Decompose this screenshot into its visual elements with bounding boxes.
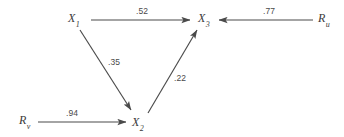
node-x2-name: X [132, 115, 140, 129]
coefficient-rv-x2: .94 [66, 109, 78, 118]
path-diagram: X1 X2 X3 Ru Rv .52 .35 .22 .77 .94 [0, 0, 344, 137]
node-x3-name: X [198, 11, 206, 25]
node-label-rv: Rv [19, 114, 30, 129]
arrow-x1-to-x2 [80, 30, 131, 110]
node-label-x2: X2 [132, 116, 144, 131]
node-label-ru: Ru [318, 12, 330, 27]
node-x1-subscript: 1 [76, 20, 80, 29]
node-label-x3: X3 [198, 12, 210, 27]
coefficient-x1-x2: .35 [108, 58, 120, 67]
node-ru-subscript: u [326, 20, 330, 29]
coefficient-x1-x3: .52 [136, 7, 148, 16]
node-rv-name: R [19, 113, 27, 127]
node-label-x1: X1 [68, 12, 80, 27]
coefficient-ru-x3: .77 [263, 7, 275, 16]
path-arrows-layer [0, 0, 344, 137]
node-rv-subscript: v [27, 122, 31, 131]
node-x2-subscript: 2 [140, 124, 144, 133]
coefficient-x2-x3: .22 [174, 74, 186, 83]
node-ru-name: R [318, 11, 326, 25]
node-x3-subscript: 3 [206, 20, 210, 29]
node-x1-name: X [68, 11, 76, 25]
arrow-x2-to-x3 [148, 30, 197, 113]
